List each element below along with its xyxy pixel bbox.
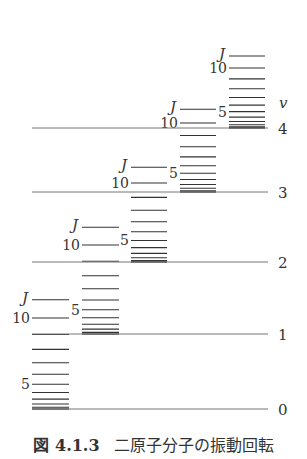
rot-label-10-v0: 10 xyxy=(12,310,30,326)
rot-label-10-v3: 10 xyxy=(160,115,178,131)
rot-label-5-v0: 5 xyxy=(21,376,30,392)
rot-label-10-v2: 10 xyxy=(111,175,129,191)
vib-level-label-v1: 1 xyxy=(278,326,288,344)
rot-label-10-v1: 10 xyxy=(62,237,80,253)
figure-caption: 図 4.1.3二原子分子の振動回転 xyxy=(0,432,307,456)
rot-label-5-v3: 5 xyxy=(169,165,178,181)
vibration-rotation-diagram: 0510J1510J2510J3510J4510Jv xyxy=(0,0,307,430)
rot-label-5-v1: 5 xyxy=(71,302,80,318)
figure-title: 二原子分子の振動回転 xyxy=(114,436,274,455)
rot-label-J-v3: J xyxy=(167,98,177,116)
rot-label-5-v2: 5 xyxy=(120,232,129,248)
vib-level-label-v0: 0 xyxy=(278,401,288,419)
figure-number: 図 4.1.3 xyxy=(33,436,99,455)
vib-axis-label: v xyxy=(279,94,288,112)
vib-level-label-v2: 2 xyxy=(278,254,288,272)
vib-level-label-v4: 4 xyxy=(278,120,288,138)
rot-label-J-v2: J xyxy=(118,156,128,174)
rot-label-J-v0: J xyxy=(19,289,29,307)
rot-label-5-v4: 5 xyxy=(218,104,227,120)
rot-label-J-v1: J xyxy=(69,216,79,234)
vib-level-label-v3: 3 xyxy=(278,184,288,202)
